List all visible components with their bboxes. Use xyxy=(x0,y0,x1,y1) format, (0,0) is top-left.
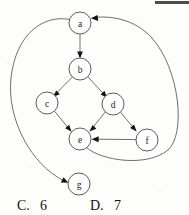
answer-choice-d-key: D. xyxy=(90,198,104,213)
node-g[interactable]: g xyxy=(68,173,90,195)
node-c-label: c xyxy=(45,99,49,109)
edge-d-to-f xyxy=(120,112,136,132)
scan-artifact-bar xyxy=(155,1,189,4)
node-c[interactable]: c xyxy=(36,92,58,114)
paper-noise xyxy=(7,20,170,191)
edge-a-to-b xyxy=(77,34,83,59)
node-a[interactable]: a xyxy=(69,12,91,34)
answer-choice-c[interactable]: C. 6 xyxy=(17,198,47,213)
figure-page: a b c d e f g C. 6 xyxy=(0,0,189,215)
edge-e-to-a-curve xyxy=(87,15,179,161)
arrowhead-a-b xyxy=(77,52,83,59)
answer-choice-d[interactable]: D. 7 xyxy=(90,198,121,213)
edge-f-to-e xyxy=(92,136,136,142)
node-e-label: e xyxy=(78,135,82,145)
node-d-label: d xyxy=(111,100,116,110)
node-e[interactable]: e xyxy=(69,128,91,150)
node-d[interactable]: d xyxy=(102,93,124,115)
node-b-label: b xyxy=(78,65,83,75)
arrowhead-d-e xyxy=(89,125,96,132)
arrowhead-c-e xyxy=(65,125,72,132)
edge-d-to-e xyxy=(89,112,105,132)
arrowhead-e-a xyxy=(91,15,98,21)
edge-b-to-c xyxy=(53,77,73,97)
graph-figure: a b c d e f g C. 6 xyxy=(0,0,189,215)
answer-choice-d-value: 7 xyxy=(114,198,121,213)
answer-choice-c-value: 6 xyxy=(40,198,47,213)
arrowhead-f-e xyxy=(92,136,99,142)
answer-choice-c-key: C. xyxy=(17,198,30,213)
node-f[interactable]: f xyxy=(136,129,158,151)
edge-b-to-d xyxy=(88,77,107,98)
node-g-label: g xyxy=(77,180,82,190)
edge-c-to-e xyxy=(55,111,72,132)
node-b[interactable]: b xyxy=(69,58,91,80)
